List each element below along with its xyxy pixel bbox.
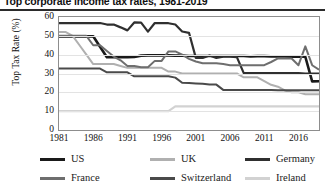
legend-row: USUKGermany [40, 150, 325, 169]
gridline [59, 111, 319, 112]
legend-label: UK [181, 154, 196, 165]
legend-swatch-icon [150, 177, 175, 180]
y-axis-label: Top Tax Rate (%) [11, 10, 21, 94]
legend-swatch-icon [150, 158, 175, 161]
y-tick-label: 20 [34, 87, 54, 97]
plot-area [58, 16, 320, 131]
gridline [59, 92, 319, 93]
legend-row: FranceSwitzerlandIreland [40, 169, 325, 188]
legend-swatch-icon [40, 177, 65, 180]
y-tick-label: 50 [34, 31, 54, 41]
x-tick-label: 2016 [278, 134, 318, 144]
legend-item-switzerland[interactable]: Switzerland [150, 173, 231, 184]
chart-figure: Top corporate income tax rates, 1981-201… [0, 0, 325, 189]
legend-swatch-icon [245, 177, 270, 180]
legend-label: Germany [276, 154, 315, 165]
series-line-germany [59, 22, 319, 73]
legend-label: Switzerland [181, 173, 231, 184]
legend-item-uk[interactable]: UK [150, 154, 196, 165]
chart-title: Top corporate income tax rates, 1981-201… [4, 0, 207, 7]
legend-swatch-icon [40, 158, 65, 161]
y-tick-label: 30 [34, 69, 54, 79]
y-tick-label: 40 [34, 50, 54, 60]
legend-item-ireland[interactable]: Ireland [245, 173, 306, 184]
y-tick-label: 60 [34, 12, 54, 22]
legend-label: Ireland [276, 173, 306, 184]
legend-swatch-icon [245, 158, 270, 161]
gridline [59, 36, 319, 37]
legend-label: France [71, 173, 100, 184]
y-tick-label: 10 [34, 106, 54, 116]
gridline [59, 74, 319, 75]
x-axis-ticks: 19811986199119962001200620112016 [58, 134, 320, 146]
chart-legend: USUKGermanyFranceSwitzerlandIreland [40, 150, 325, 188]
legend-item-us[interactable]: US [40, 154, 84, 165]
legend-item-germany[interactable]: Germany [245, 154, 315, 165]
legend-label: US [71, 154, 84, 165]
legend-item-france[interactable]: France [40, 173, 100, 184]
y-axis-ticks: 0102030405060 [32, 16, 54, 131]
gridline [59, 55, 319, 56]
